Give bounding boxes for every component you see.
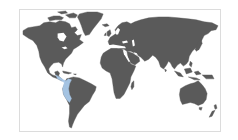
iceland[interactable]: [102, 24, 109, 27]
southeast-asia-islands[interactable]: [174, 61, 214, 80]
tasmania[interactable]: [199, 107, 202, 110]
arctic-islands[interactable]: [48, 11, 78, 21]
north-america[interactable]: [23, 21, 83, 81]
greenland[interactable]: [77, 12, 103, 36]
caribbean[interactable]: [63, 71, 77, 75]
new-zealand[interactable]: [209, 104, 217, 117]
sri-lanka[interactable]: [165, 69, 167, 72]
madagascar[interactable]: [131, 81, 134, 90]
australia[interactable]: [179, 81, 207, 106]
world-map: [19, 9, 221, 132]
british-isles[interactable]: [104, 30, 111, 37]
world-map-svg: [20, 10, 220, 131]
